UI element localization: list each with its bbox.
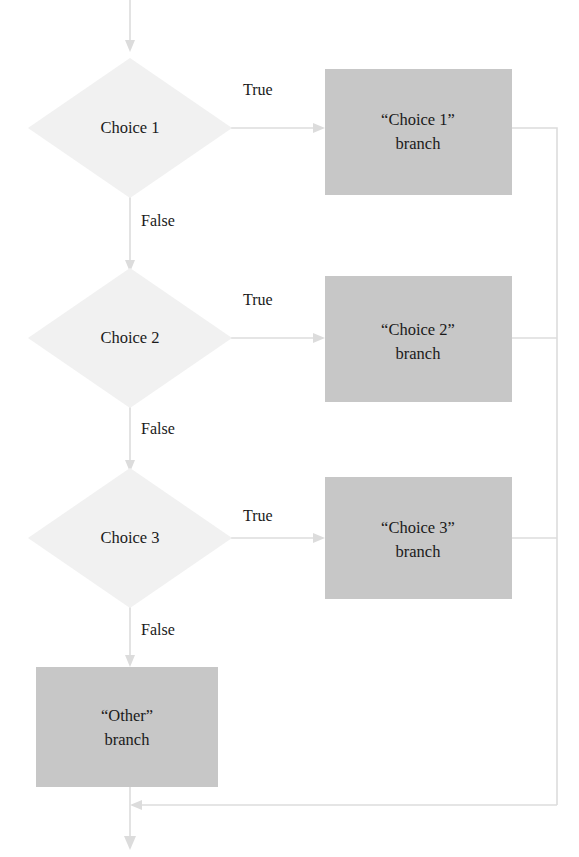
decision-choice-2-label: Choice 2 [100,328,159,347]
process-branch-2[interactable]: “Choice 2” branch [325,276,512,402]
connector-exit [124,805,136,850]
process-branch-2-line1: “Choice 2” [381,320,455,339]
process-branch-3-line1: “Choice 3” [381,518,455,537]
process-branch-3[interactable]: “Choice 3” branch [325,477,512,599]
edge-label-choice3-false: False [141,621,175,638]
flowchart-diagram: Choice 1 Choice 2 Choice 3 “Choice 1” br… [0,0,579,857]
process-branch-1[interactable]: “Choice 1” branch [325,69,512,195]
connector-choice2-false [125,404,135,472]
connector-choice3-true [231,533,325,543]
connector-choice3-false [125,604,135,667]
edge-label-choice3-true: True [243,507,273,524]
process-branch-2-line2: branch [396,344,442,363]
connector-merge-return [130,800,557,810]
process-branch-other-line2: branch [105,730,151,749]
process-branch-other-line1: “Other” [101,706,153,725]
process-branch-3-line2: branch [396,542,442,561]
connector-entry [125,0,135,52]
connector-choice1-false [125,194,135,272]
edge-label-choice1-false: False [141,212,175,229]
decision-choice-1-label: Choice 1 [100,118,159,137]
edge-label-choice1-true: True [243,81,273,98]
decision-choice-1[interactable]: Choice 1 [28,58,232,198]
process-branch-1-line1: “Choice 1” [381,110,455,129]
decision-choice-3[interactable]: Choice 3 [28,468,232,608]
process-branch-other[interactable]: “Other” branch [36,667,218,787]
connector-choice1-true [231,123,325,133]
decision-choice-2[interactable]: Choice 2 [28,268,232,408]
connector-branch1-merge [512,128,557,805]
connector-choice2-true [231,333,325,343]
flowchart-canvas: Choice 1 Choice 2 Choice 3 “Choice 1” br… [0,0,579,857]
decision-choice-3-label: Choice 3 [100,528,159,547]
edge-label-choice2-true: True [243,291,273,308]
edge-label-choice2-false: False [141,420,175,437]
process-branch-1-line2: branch [396,134,442,153]
